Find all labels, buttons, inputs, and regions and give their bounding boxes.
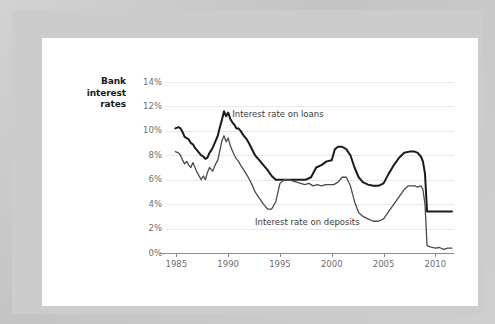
outer-frame: Bank interest rates 0%2%4%6%8%10%12%14% … [0,0,495,324]
plot-area: 0%2%4%6%8%10%12%14% 19851990199520002005… [42,38,478,306]
mat-border: Bank interest rates 0%2%4%6%8%10%12%14% … [12,10,483,314]
annotation-interest-rate-on-loans: Interest rate on loans [232,109,323,119]
chart-card: Bank interest rates 0%2%4%6%8%10%12%14% … [42,38,478,306]
series-line-interest-rate-on-deposits [175,136,452,250]
series-lines [42,38,478,306]
annotation-interest-rate-on-deposits: Interest rate on deposits [255,217,360,227]
